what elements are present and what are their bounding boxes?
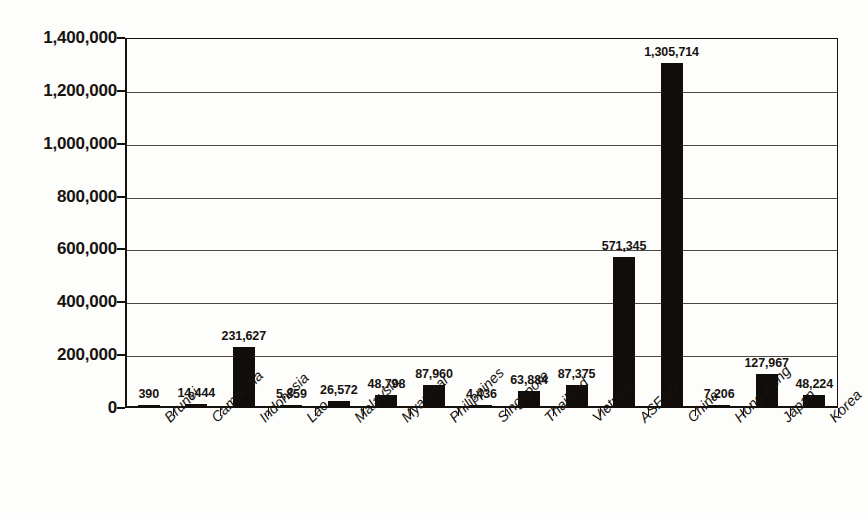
bar-chart: 0200,000400,000600,000800,0001,000,0001,… — [0, 0, 868, 519]
bar-group[interactable]: 26,572 — [315, 38, 363, 408]
y-axis-tick-mark — [117, 143, 125, 145]
x-axis-label: Myanmar — [398, 414, 409, 425]
y-axis-tick-label: 800,000 — [0, 187, 117, 207]
bar-group[interactable]: 231,627 — [220, 38, 268, 408]
bar[interactable] — [138, 405, 160, 408]
y-axis-tick-label: 400,000 — [0, 292, 117, 312]
x-axis-label: Japan — [779, 414, 790, 425]
y-axis-tick-label: 600,000 — [0, 239, 117, 259]
bar-group[interactable]: 48,798 — [363, 38, 411, 408]
x-axis-tick-mark — [695, 408, 696, 416]
x-axis-tick-mark — [790, 408, 791, 416]
x-axis-label: Philippines — [446, 414, 457, 425]
x-axis-tick-mark — [268, 408, 269, 416]
bar-group[interactable]: 390 — [125, 38, 173, 408]
x-axis-label: China — [684, 414, 695, 425]
x-axis-label: Indonesia — [256, 414, 267, 425]
y-axis-tick-label: 200,000 — [0, 345, 117, 365]
bar-group[interactable]: 1,305,714 — [648, 38, 696, 408]
y-axis-tick-mark — [117, 196, 125, 198]
x-axis-label: Cambodia — [208, 414, 219, 425]
y-axis-tick-mark — [117, 90, 125, 92]
x-axis-label: Lao — [303, 414, 314, 425]
x-axis-tick-mark — [553, 408, 554, 416]
x-axis-label: Malaysia — [351, 414, 362, 425]
x-axis-tick-mark — [458, 408, 459, 416]
bar-value-label: 390 — [138, 387, 159, 401]
x-axis-tick-mark — [315, 408, 316, 416]
y-axis-tick-label: 1,400,000 — [0, 28, 117, 48]
x-axis-label: Singapore — [494, 414, 505, 425]
y-axis-tick-label: 1,000,000 — [0, 134, 117, 154]
bar-value-label: 26,572 — [320, 383, 358, 397]
y-axis-tick-mark — [117, 301, 125, 303]
y-axis-tick-mark — [117, 407, 125, 409]
bar-value-label: 231,627 — [222, 329, 267, 343]
bar-group[interactable]: 48,224 — [790, 38, 838, 408]
bar-value-label: 1,305,714 — [644, 45, 699, 59]
y-axis-tick-mark — [117, 37, 125, 39]
bar-group[interactable]: 7,206 — [695, 38, 743, 408]
y-axis: 0200,000400,000600,000800,0001,000,0001,… — [0, 0, 117, 519]
bar-group[interactable]: 571,345 — [600, 38, 648, 408]
bar-group[interactable]: 127,967 — [743, 38, 791, 408]
x-axis-label: Hong Kong — [731, 414, 742, 425]
x-axis-tick-mark — [648, 408, 649, 416]
x-axis-tick-mark — [363, 408, 364, 416]
x-axis-tick-mark — [173, 408, 174, 416]
y-axis-tick-label: 1,200,000 — [0, 81, 117, 101]
x-axis-tick-mark — [505, 408, 506, 416]
x-axis-labels: BruneiCambodiaIndonesiaLaoMalaysiaMyanma… — [125, 414, 838, 519]
x-axis-tick-mark — [600, 408, 601, 416]
x-axis-tick-mark — [743, 408, 744, 416]
x-axis-tick-mark — [220, 408, 221, 416]
x-axis-label: Thailand — [541, 414, 552, 425]
y-axis-tick-mark — [117, 354, 125, 356]
x-axis-label: ASEAN — [636, 414, 647, 425]
x-axis-tick-mark — [410, 408, 411, 416]
x-axis-label: Korea — [826, 414, 837, 425]
bar[interactable] — [661, 63, 683, 408]
bars-layer: 39014,444231,6275,85926,57248,79887,9604… — [125, 38, 838, 408]
y-axis-tick-label: 0 — [0, 398, 117, 418]
bar-value-label: 48,224 — [795, 377, 833, 391]
x-axis-tick-mark — [838, 408, 839, 416]
bar-group[interactable]: 14,444 — [173, 38, 221, 408]
y-axis-tick-mark — [117, 248, 125, 250]
bar-group[interactable]: 87,960 — [410, 38, 458, 408]
bar-group[interactable]: 4,436 — [458, 38, 506, 408]
bar-group[interactable]: 87,375 — [553, 38, 601, 408]
bar[interactable] — [328, 401, 350, 408]
x-axis-label: Vietnam — [589, 414, 600, 425]
x-axis-label: Brunei — [161, 414, 172, 425]
bar-group[interactable]: 5,859 — [268, 38, 316, 408]
bar-value-label: 571,345 — [602, 239, 647, 253]
bar-group[interactable]: 63,884 — [505, 38, 553, 408]
